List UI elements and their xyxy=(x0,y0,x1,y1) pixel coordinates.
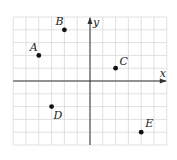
points: ABCDE xyxy=(29,15,153,135)
y-axis-label: y xyxy=(92,16,100,29)
axes: x y xyxy=(13,16,167,145)
point-label: E xyxy=(144,117,153,130)
point-label: D xyxy=(53,109,63,122)
coordinate-plane: x y ABCDE xyxy=(0,0,177,160)
point-label: B xyxy=(54,15,63,28)
point-marker xyxy=(62,27,67,32)
x-axis-label: x xyxy=(160,67,167,80)
point-label: A xyxy=(29,41,38,54)
point-marker xyxy=(139,130,144,135)
point-label: C xyxy=(120,55,129,68)
y-axis-arrow-icon xyxy=(88,17,93,24)
point-marker xyxy=(113,66,118,71)
